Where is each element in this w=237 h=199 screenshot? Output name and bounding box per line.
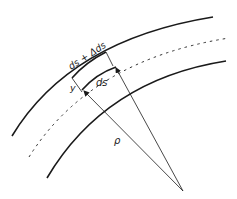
radius-line-left [84, 91, 183, 191]
beam-bending-diagram: ds + Δds ds y ρ [0, 0, 237, 199]
offset-y-label: y [69, 82, 76, 93]
outer-segment-label: ds + Δds [66, 39, 108, 71]
inner-segment-label: ds [96, 77, 108, 88]
radius-line-right [116, 68, 183, 191]
neutral-axis-dashed-curve [29, 38, 229, 157]
radius-rho-label: ρ [114, 135, 121, 146]
bracket-right-edge [106, 52, 113, 66]
inner-fiber-curve [47, 61, 226, 178]
